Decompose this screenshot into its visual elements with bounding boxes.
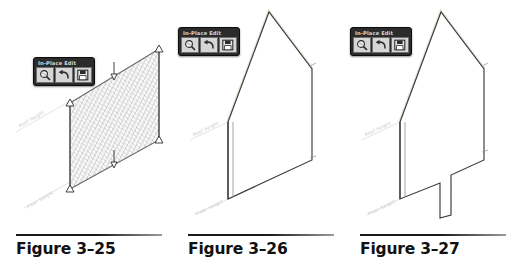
in-place-edit-toolbar-3-25[interactable]: In-Place Edit bbox=[33, 57, 95, 86]
caption-rule bbox=[16, 234, 162, 236]
zoom-magnifier-icon[interactable] bbox=[353, 37, 371, 53]
in-place-edit-toolbar-3-27[interactable]: In-Place Edit bbox=[350, 27, 412, 56]
save-disk-icon[interactable] bbox=[219, 37, 237, 53]
toolbar-title: In-Place Edit bbox=[353, 29, 409, 37]
figure-panel-3-25: Roof height Floor height In-Place Edit bbox=[0, 0, 172, 264]
zoom-magnifier-icon[interactable] bbox=[36, 67, 54, 83]
caption-block-3-27: Figure 3–27 bbox=[360, 234, 506, 258]
toolbar-button-row bbox=[353, 37, 409, 53]
caption-rule bbox=[188, 234, 334, 236]
figure-art-3-25 bbox=[0, 0, 172, 224]
save-disk-icon[interactable] bbox=[391, 37, 409, 53]
undo-arrow-icon[interactable] bbox=[372, 37, 390, 53]
undo-arrow-icon[interactable] bbox=[55, 67, 73, 83]
in-place-edit-toolbar-3-26[interactable]: In-Place Edit bbox=[178, 27, 240, 56]
toolbar-title: In-Place Edit bbox=[36, 59, 92, 67]
figure-page: Roof height Floor height In-Place Edit bbox=[0, 0, 516, 264]
figure-panel-3-26: Roof height Floor height In-Place Edit bbox=[172, 0, 344, 264]
undo-arrow-icon[interactable] bbox=[200, 37, 218, 53]
save-disk-icon[interactable] bbox=[74, 67, 92, 83]
figure-caption: Figure 3–26 bbox=[188, 240, 334, 258]
figure-caption: Figure 3–27 bbox=[360, 240, 506, 258]
caption-rule bbox=[360, 234, 506, 236]
toolbar-title: In-Place Edit bbox=[181, 29, 237, 37]
toolbar-button-row bbox=[181, 37, 237, 53]
zoom-magnifier-icon[interactable] bbox=[181, 37, 199, 53]
figure-panel-3-27: Roof height Floor height In-Place Edit bbox=[344, 0, 516, 264]
toolbar-button-row bbox=[36, 67, 92, 83]
figure-caption: Figure 3–25 bbox=[16, 240, 162, 258]
caption-block-3-25: Figure 3–25 bbox=[16, 234, 162, 258]
caption-block-3-26: Figure 3–26 bbox=[188, 234, 334, 258]
